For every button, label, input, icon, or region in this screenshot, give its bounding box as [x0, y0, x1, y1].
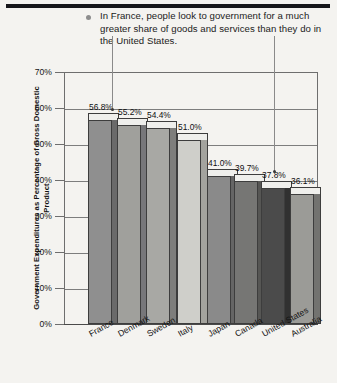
y-axis-tick [55, 252, 64, 253]
y-axis-tick-label: 20% [12, 247, 52, 257]
bar-front-face [177, 140, 201, 324]
bar-top-face [88, 113, 119, 120]
bar-front-face [146, 128, 170, 324]
bar-front-face [261, 188, 285, 324]
y-axis-tick-label: 40% [12, 175, 52, 185]
bar: 54.4% [146, 128, 170, 324]
bar: 36.1% [290, 194, 314, 324]
y-axis-tick-label: 60% [12, 103, 52, 113]
bar-value-label: 54.4% [147, 110, 171, 120]
bar: 39.7% [234, 181, 258, 324]
bar-top-face [177, 133, 208, 140]
bar-front-face [88, 120, 112, 324]
bar-front-face [234, 181, 258, 324]
bar-top-face [261, 181, 292, 188]
bar-value-label: 36.1% [291, 176, 315, 186]
chart-figure: In France, people look to government for… [0, 0, 337, 383]
leader-line-endpoint [111, 108, 114, 111]
leader-line [274, 36, 275, 172]
leader-line [112, 36, 113, 110]
bar-value-label: 41.0% [208, 158, 232, 168]
bar-top-face [117, 118, 148, 125]
bar: 37.8% [261, 188, 285, 324]
bar-front-face [207, 176, 231, 324]
top-rule-divider [6, 4, 330, 8]
round-bullet-icon [86, 15, 91, 20]
bar-top-face [146, 121, 177, 128]
y-axis-tick-label: 70% [12, 67, 52, 77]
y-axis-tick [55, 324, 64, 325]
callout-annotation: In France, people look to government for… [86, 10, 322, 48]
y-axis-tick [55, 144, 64, 145]
bar-side-face [314, 187, 321, 324]
y-axis-tick [55, 180, 64, 181]
bar-value-label: 56.8% [89, 102, 113, 112]
bar: 55.2% [117, 125, 141, 324]
bar: 56.8% [88, 120, 112, 324]
bar-value-label: 39.7% [235, 163, 259, 173]
bar-front-face [117, 125, 141, 324]
y-axis-tick [55, 72, 64, 73]
bar: 51.0% [177, 140, 201, 324]
y-axis-tick-label: 10% [12, 283, 52, 293]
bar-value-label: 51.0% [178, 122, 202, 132]
bar-top-face [290, 187, 321, 194]
y-axis-tick [55, 108, 64, 109]
y-axis-title: Government Expenditures as Percentage of… [32, 82, 52, 314]
bar-side-face [170, 121, 177, 324]
bar: 41.0% [207, 176, 231, 324]
callout-text: In France, people look to government for… [100, 10, 322, 48]
y-axis-tick-label: 30% [12, 211, 52, 221]
y-axis-tick-label: 50% [12, 139, 52, 149]
y-axis-tick [55, 216, 64, 217]
leader-line-endpoint [273, 170, 276, 173]
bar-value-label: 55.2% [118, 107, 142, 117]
y-axis-tick [55, 288, 64, 289]
y-axis-tick-label: 0% [12, 319, 52, 329]
bar-front-face [290, 194, 314, 324]
